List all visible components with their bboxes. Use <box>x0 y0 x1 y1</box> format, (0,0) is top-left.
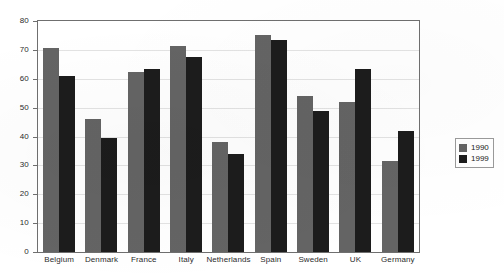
y-tick-label: 10 <box>20 219 29 227</box>
y-tick-label: 20 <box>20 190 29 198</box>
legend-label-1990: 1990 <box>471 144 489 152</box>
y-tick-label: 70 <box>20 46 29 54</box>
bar-1999-belgium <box>59 76 75 252</box>
bar-1999-italy <box>186 57 202 252</box>
bar-1990-belgium <box>43 48 59 252</box>
x-tick-label: Italy <box>179 256 194 264</box>
legend-swatch-icon-1999 <box>459 155 467 163</box>
y-tick-mark <box>33 108 37 109</box>
bar-1999-germany <box>398 131 414 252</box>
bar-1990-uk <box>339 102 355 252</box>
x-tick-label: Denmark <box>85 256 118 264</box>
x-axis: BelgiumDenmarkFranceItalyNetherlandsSpai… <box>38 256 419 274</box>
x-tick-label: Spain <box>260 256 281 264</box>
x-tick-label: Netherlands <box>206 256 250 264</box>
bar-chart: 01020304050607080 BelgiumDenmarkFranceIt… <box>0 0 504 279</box>
y-tick-mark <box>33 194 37 195</box>
bar-1990-netherlands <box>212 142 228 252</box>
legend-label-1999: 1999 <box>471 155 489 163</box>
bar-group <box>123 21 165 252</box>
bar-1999-denmark <box>101 138 117 252</box>
y-tick-mark <box>33 21 37 22</box>
bar-1990-italy <box>170 46 186 252</box>
y-tick-mark <box>33 79 37 80</box>
bar-group <box>334 21 376 252</box>
bar-1999-netherlands <box>228 154 244 252</box>
chart-legend: 1990 1999 <box>455 138 494 168</box>
bar-group <box>292 21 334 252</box>
y-tick-mark <box>33 137 37 138</box>
y-tick-mark <box>33 165 37 166</box>
y-tick-label: 40 <box>20 133 29 141</box>
x-tick-label: Sweden <box>298 256 328 264</box>
bar-group <box>207 21 249 252</box>
bar-group <box>38 21 80 252</box>
legend-item-1990: 1990 <box>459 142 489 153</box>
y-tick-label: 50 <box>20 104 29 112</box>
y-tick-label: 30 <box>20 161 29 169</box>
y-axis: 01020304050607080 <box>0 20 33 253</box>
bar-group <box>250 21 292 252</box>
x-tick-label: Belgium <box>44 256 74 264</box>
legend-item-1999: 1999 <box>459 153 489 164</box>
x-tick-label: France <box>131 256 157 264</box>
bar-1990-france <box>128 72 144 252</box>
bar-1999-france <box>144 69 160 252</box>
y-tick-label: 80 <box>20 17 29 25</box>
bar-group <box>377 21 419 252</box>
bars-layer <box>38 21 419 252</box>
bar-1990-germany <box>382 161 398 252</box>
y-tick-mark <box>33 50 37 51</box>
x-tick-label: Germany <box>381 256 415 264</box>
bar-1990-sweden <box>297 96 313 252</box>
bar-group <box>80 21 122 252</box>
y-tick-label: 60 <box>20 75 29 83</box>
y-tick-mark <box>33 223 37 224</box>
bar-1999-sweden <box>313 111 329 252</box>
y-tick-mark <box>33 252 37 253</box>
legend-swatch-icon-1990 <box>459 144 467 152</box>
y-tick-label: 0 <box>24 248 29 256</box>
bar-1990-spain <box>255 35 271 252</box>
x-tick-label: UK <box>350 256 361 264</box>
bar-group <box>165 21 207 252</box>
bar-1999-spain <box>271 40 287 252</box>
bar-1999-uk <box>355 69 371 252</box>
bar-1990-denmark <box>85 119 101 252</box>
